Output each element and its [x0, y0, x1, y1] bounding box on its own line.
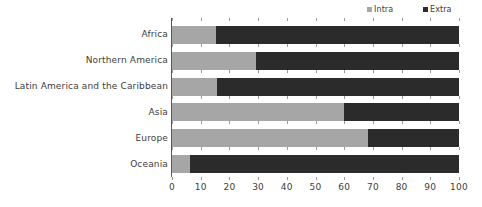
tick-mark	[373, 96, 374, 99]
x-axis-tick-label: 70	[367, 182, 379, 193]
y-axis-category-label: Europe	[0, 133, 168, 144]
tick-mark	[172, 147, 173, 150]
tick-mark	[373, 18, 374, 21]
bar-row	[172, 52, 459, 70]
tick-mark	[287, 18, 288, 21]
tick-mark	[459, 96, 460, 99]
bar-segment-extra[interactable]	[256, 52, 459, 70]
bar-segment-extra[interactable]	[344, 103, 459, 121]
bar-row	[172, 155, 459, 173]
tick-mark	[344, 96, 345, 99]
tick-mark	[201, 96, 202, 99]
tick-mark	[373, 177, 374, 180]
tick-mark	[316, 121, 317, 124]
y-axis-category-label: Oceania	[0, 159, 168, 170]
tick-mark	[316, 44, 317, 47]
bar-segment-intra[interactable]	[172, 155, 190, 173]
tick-mark	[172, 177, 173, 180]
legend-item-extra[interactable]: Extra	[423, 3, 452, 15]
bar-segment-intra[interactable]	[172, 103, 344, 121]
y-axis-category-label: Asia	[0, 107, 168, 118]
tick-mark	[402, 121, 403, 124]
tick-mark	[316, 96, 317, 99]
tick-mark	[172, 121, 173, 124]
tick-mark	[172, 70, 173, 73]
x-axis-tick-labels: 0102030405060708090100	[172, 182, 459, 196]
tick-mark	[430, 121, 431, 124]
x-axis-tick-label: 20	[223, 182, 235, 193]
tick-mark	[373, 147, 374, 150]
x-axis-tick-label: 100	[450, 182, 468, 193]
tick-mark	[229, 44, 230, 47]
tick-mark	[229, 18, 230, 21]
tick-mark	[229, 70, 230, 73]
stacked-bar-chart: Intra Extra AfricaNorthern AmericaLatin …	[0, 0, 482, 207]
bar-segment-extra[interactable]	[216, 26, 459, 44]
tick-mark	[201, 177, 202, 180]
bar-segment-extra[interactable]	[190, 155, 459, 173]
tick-mark	[430, 177, 431, 180]
tick-mark	[373, 121, 374, 124]
bar-segment-intra[interactable]	[172, 78, 217, 96]
x-axis-tick-label: 30	[252, 182, 264, 193]
chart-legend: Intra Extra	[0, 3, 482, 17]
tick-mark	[402, 96, 403, 99]
x-axis-tick-label: 80	[396, 182, 408, 193]
legend-label-extra: Extra	[430, 5, 452, 14]
bar-segment-extra[interactable]	[217, 78, 459, 96]
bar-segment-intra[interactable]	[172, 52, 256, 70]
tick-mark	[459, 44, 460, 47]
tick-mark	[201, 121, 202, 124]
tick-mark	[201, 70, 202, 73]
tick-mark	[258, 70, 259, 73]
tick-mark	[258, 147, 259, 150]
legend-item-intra[interactable]: Intra	[367, 3, 393, 15]
tick-mark	[373, 70, 374, 73]
tick-mark	[459, 121, 460, 124]
tick-mark	[430, 18, 431, 21]
x-axis-tick-label: 50	[310, 182, 322, 193]
x-axis-tick-label: 10	[195, 182, 207, 193]
bar-segment-intra[interactable]	[172, 26, 216, 44]
tick-mark	[287, 96, 288, 99]
tick-mark	[229, 121, 230, 124]
tick-mark	[287, 70, 288, 73]
tick-mark	[316, 18, 317, 21]
tick-mark	[287, 147, 288, 150]
tick-mark	[172, 96, 173, 99]
tick-mark	[201, 18, 202, 21]
tick-mark	[459, 147, 460, 150]
bar-segment-intra[interactable]	[172, 129, 368, 147]
tick-mark	[316, 70, 317, 73]
bar-row	[172, 129, 459, 147]
bar-segment-extra[interactable]	[368, 129, 459, 147]
tick-mark	[229, 177, 230, 180]
x-axis-tick-label: 40	[281, 182, 293, 193]
tick-mark	[430, 96, 431, 99]
tick-mark	[402, 177, 403, 180]
tick-mark	[373, 44, 374, 47]
tick-mark	[287, 44, 288, 47]
tick-mark	[344, 44, 345, 47]
tick-mark	[344, 121, 345, 124]
bar-row	[172, 26, 459, 44]
tick-mark	[172, 18, 173, 21]
tick-mark	[258, 121, 259, 124]
bar-row	[172, 103, 459, 121]
x-axis-tick-label: 60	[338, 182, 350, 193]
y-axis-category-labels: AfricaNorthern AmericaLatin America and …	[0, 22, 168, 177]
tick-mark	[344, 147, 345, 150]
plot-area	[172, 22, 459, 177]
tick-mark	[344, 18, 345, 21]
tick-mark	[402, 18, 403, 21]
tick-mark	[459, 177, 460, 180]
tick-mark	[172, 44, 173, 47]
tick-mark	[258, 96, 259, 99]
x-axis-tick-label: 0	[169, 182, 175, 193]
tick-mark	[430, 147, 431, 150]
tick-mark	[316, 147, 317, 150]
tick-mark	[201, 147, 202, 150]
tick-mark	[201, 44, 202, 47]
y-axis-category-label: Latin America and the Caribbean	[0, 81, 168, 92]
tick-mark	[258, 44, 259, 47]
